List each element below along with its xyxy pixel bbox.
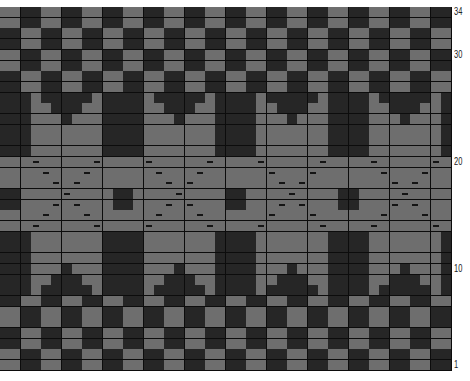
dash-symbol-icon [299, 182, 305, 184]
dash-symbol-icon [310, 172, 316, 174]
dash-symbol-icon [94, 225, 100, 227]
chart-cell [441, 71, 452, 82]
dash-symbol-icon [381, 214, 387, 216]
dash-symbol-icon [176, 193, 182, 195]
dash-symbol-icon [84, 214, 90, 216]
dash-symbol-icon [94, 161, 100, 163]
dash-symbol-icon [310, 214, 316, 216]
dash-symbol-icon [84, 172, 90, 174]
chart-cell [441, 7, 452, 18]
knitting-chart-grid [0, 7, 451, 371]
chart-cell [441, 349, 452, 360]
dash-symbol-icon [392, 204, 398, 206]
row-label-10: 10 [454, 264, 462, 274]
dash-symbol-icon [258, 161, 264, 163]
dash-symbol-icon [258, 225, 264, 227]
dash-symbol-icon [166, 204, 172, 206]
dash-symbol-icon [43, 214, 49, 216]
chart-cell [441, 242, 452, 253]
dash-symbol-icon [412, 204, 418, 206]
chart-cell [441, 125, 452, 136]
chart-cell [441, 135, 452, 146]
dash-symbol-icon [207, 161, 213, 163]
chart-cell [441, 360, 452, 371]
dash-symbol-icon [33, 225, 39, 227]
chart-cell [441, 317, 452, 328]
dash-symbol-icon [74, 204, 80, 206]
dash-symbol-icon [269, 214, 275, 216]
chart-footer [200, 372, 260, 380]
dash-symbol-icon [422, 172, 428, 174]
row-label-30: 30 [454, 50, 462, 60]
chart-cell [441, 275, 452, 286]
dash-symbol-icon [402, 193, 408, 195]
dash-symbol-icon [412, 182, 418, 184]
dash-symbol-icon [392, 182, 398, 184]
chart-cell [441, 264, 452, 275]
dash-symbol-icon [279, 204, 285, 206]
chart-cell [441, 146, 452, 157]
chart-cell [441, 18, 452, 29]
dash-symbol-icon [422, 214, 428, 216]
chart-cell [441, 50, 452, 61]
dash-symbol-icon [381, 172, 387, 174]
dash-symbol-icon [279, 182, 285, 184]
chart-cell [441, 232, 452, 243]
chart-cell [441, 114, 452, 125]
dash-symbol-icon [64, 193, 70, 195]
dash-symbol-icon [371, 225, 377, 227]
dash-symbol-icon [207, 225, 213, 227]
chart-cell [441, 221, 452, 232]
dash-symbol-icon [197, 172, 203, 174]
chart-cell [441, 39, 452, 50]
dash-symbol-icon [146, 225, 152, 227]
row-label-34: 34 [454, 7, 462, 17]
chart-cell [441, 178, 452, 189]
dash-symbol-icon [371, 161, 377, 163]
dash-symbol-icon [187, 182, 193, 184]
dash-symbol-icon [53, 182, 59, 184]
dash-symbol-icon [187, 204, 193, 206]
dash-symbol-icon [146, 161, 152, 163]
chart-cell [441, 93, 452, 104]
chart-cell [441, 168, 452, 179]
chart-cell [441, 307, 452, 318]
chart-cell [441, 157, 452, 168]
dash-symbol-icon [156, 214, 162, 216]
chart-cell [441, 328, 452, 339]
dash-symbol-icon [433, 161, 439, 163]
chart-cell [441, 61, 452, 72]
chart-cell [441, 189, 452, 200]
chart-cell [441, 296, 452, 307]
dash-symbol-icon [43, 172, 49, 174]
dash-symbol-icon [53, 204, 59, 206]
dash-symbol-icon [299, 204, 305, 206]
chart-cell [441, 253, 452, 264]
dash-symbol-icon [269, 172, 275, 174]
dash-symbol-icon [156, 172, 162, 174]
chart-cell [441, 339, 452, 350]
chart-cell [441, 82, 452, 93]
chart-cell [441, 210, 452, 221]
chart-cell [441, 200, 452, 211]
dash-symbol-icon [197, 214, 203, 216]
dash-symbol-icon [320, 161, 326, 163]
row-label-1: 1 [454, 360, 458, 370]
chart-cell [441, 28, 452, 39]
dash-symbol-icon [74, 182, 80, 184]
dash-symbol-icon [289, 193, 295, 195]
chart-cell [441, 285, 452, 296]
chart-cell [441, 103, 452, 114]
dash-symbol-icon [433, 225, 439, 227]
dash-symbol-icon [166, 182, 172, 184]
dash-symbol-icon [33, 161, 39, 163]
row-label-20: 20 [454, 157, 462, 167]
dash-symbol-icon [320, 225, 326, 227]
